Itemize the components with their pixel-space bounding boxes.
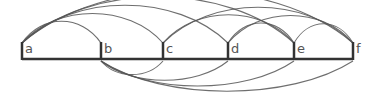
node-label-d: d <box>231 42 239 55</box>
arc-c-f <box>163 7 353 43</box>
arc-b-f <box>101 61 353 91</box>
arc-diagram <box>0 0 383 97</box>
arc-a-d <box>22 5 228 43</box>
arcs-above <box>22 0 353 43</box>
node-label-e: e <box>297 42 305 55</box>
node-label-f: f <box>356 42 361 55</box>
arc-b-e <box>101 61 294 86</box>
node-label-a: a <box>25 42 33 55</box>
node-label-b: b <box>104 42 112 55</box>
node-label-c: c <box>166 42 173 55</box>
arc-a-f <box>22 0 353 43</box>
arc-c-e <box>163 15 294 43</box>
arcs-below <box>101 61 353 91</box>
